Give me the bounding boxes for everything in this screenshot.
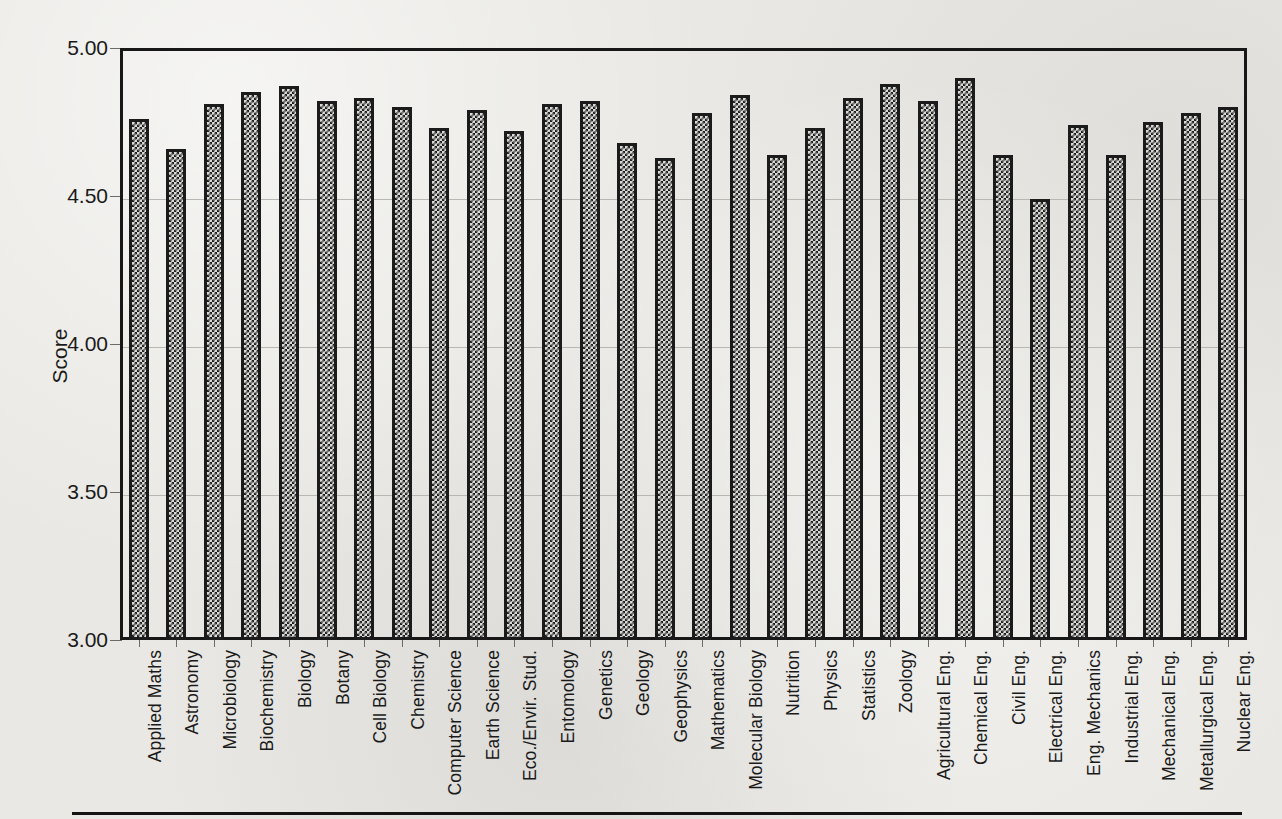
- x-axis-tick-label: Biology: [295, 650, 316, 708]
- bar: [617, 143, 637, 640]
- bar: [805, 128, 825, 640]
- x-axis-tick-mark: [251, 640, 252, 647]
- x-axis-tick-label: Mathematics: [708, 650, 729, 750]
- x-axis-tick-label: Microbiology: [220, 650, 241, 749]
- bar: [1181, 113, 1201, 640]
- x-axis-tick-label: Physics: [821, 650, 842, 711]
- bar: [1143, 122, 1163, 640]
- x-axis-tick-label: Chemistry: [408, 650, 429, 730]
- x-axis-tick-label: Chemical Eng.: [971, 650, 992, 765]
- x-axis-tick-mark: [552, 640, 553, 647]
- x-axis-tick-label: Mechanical Eng.: [1159, 650, 1180, 781]
- x-axis-tick-mark: [590, 640, 591, 647]
- x-axis-tick-label: Entomology: [558, 650, 579, 743]
- x-axis-tick-label: Industrial Eng.: [1122, 650, 1143, 763]
- x-axis-tick-mark: [965, 640, 966, 647]
- x-axis-tick-label: Statistics: [859, 650, 880, 721]
- x-axis-tick-label: Nuclear Eng.: [1234, 650, 1255, 752]
- bar: [129, 119, 149, 640]
- x-axis-tick-label: Computer Science: [445, 650, 466, 796]
- x-axis-tick-mark: [139, 640, 140, 647]
- bar: [955, 78, 975, 640]
- bar: [317, 101, 337, 640]
- y-axis-tick-label: 4.50: [0, 184, 108, 208]
- bar: [542, 104, 562, 640]
- bar: [204, 104, 224, 640]
- x-axis-tick-label: Nutrition: [783, 650, 804, 716]
- x-axis-tick-mark: [1116, 640, 1117, 647]
- x-axis-tick-mark: [890, 640, 891, 647]
- x-axis-tick-mark: [439, 640, 440, 647]
- x-axis-tick-mark: [853, 640, 854, 647]
- bar: [993, 155, 1013, 640]
- y-axis-tick-label: 3.00: [0, 628, 108, 652]
- y-axis-tick-label: 4.00: [0, 332, 108, 356]
- x-axis-tick-mark: [402, 640, 403, 647]
- x-axis-tick-mark: [702, 640, 703, 647]
- bar: [467, 110, 487, 640]
- bar: [767, 155, 787, 640]
- x-axis-tick-mark: [1191, 640, 1192, 647]
- x-axis-tick-label: Electrical Eng.: [1046, 650, 1067, 763]
- bar: [692, 113, 712, 640]
- x-axis-tick-label: Eco./Envir. Stud.: [520, 650, 541, 781]
- x-axis-tick-mark: [928, 640, 929, 647]
- bar: [279, 86, 299, 640]
- x-axis-tick-mark: [364, 640, 365, 647]
- x-axis-tick-mark: [214, 640, 215, 647]
- x-axis-tick-mark: [665, 640, 666, 647]
- x-axis-tick-mark: [477, 640, 478, 647]
- x-axis-tick-mark: [1153, 640, 1154, 647]
- x-axis-tick-label: Zoology: [896, 650, 917, 713]
- x-axis-tick-label: Molecular Biology: [746, 650, 767, 790]
- bar: [166, 149, 186, 640]
- bar: [241, 92, 261, 640]
- x-axis-tick-mark: [627, 640, 628, 647]
- bar-chart-figure: Score 3.003.504.004.505.00 Applied Maths…: [0, 0, 1282, 819]
- x-axis-tick-mark: [289, 640, 290, 647]
- x-axis-tick-label: Astronomy: [182, 650, 203, 735]
- x-axis-tick-mark: [1003, 640, 1004, 647]
- y-axis-tick-label: 5.00: [0, 36, 108, 60]
- x-axis-tick-label: Cell Biology: [370, 650, 391, 744]
- x-axis-tick-label: Biochemistry: [257, 650, 278, 751]
- bar: [843, 98, 863, 640]
- x-axis-tick-mark: [327, 640, 328, 647]
- x-axis-tick-label: Botany: [333, 650, 354, 705]
- x-axis-tick-mark: [1078, 640, 1079, 647]
- x-axis-tick-label: Geophysics: [671, 650, 692, 742]
- bar: [730, 95, 750, 640]
- bar: [1068, 125, 1088, 640]
- footer-rule: [72, 812, 1242, 815]
- y-axis-label: Score: [48, 276, 72, 436]
- x-axis-tick-labels: Applied MathsAstronomyMicrobiologyBioche…: [120, 640, 1247, 800]
- bar: [655, 158, 675, 640]
- x-axis-tick-mark: [815, 640, 816, 647]
- bar: [1106, 155, 1126, 640]
- x-axis-tick-label: Eng. Mechanics: [1084, 650, 1105, 776]
- x-axis-tick-mark: [740, 640, 741, 647]
- bar: [580, 101, 600, 640]
- x-axis-tick-label: Geology: [633, 650, 654, 716]
- bar: [429, 128, 449, 640]
- x-axis-tick-label: Applied Maths: [145, 650, 166, 762]
- x-axis-tick-label: Metallurgical Eng.: [1197, 650, 1218, 791]
- bar: [354, 98, 374, 640]
- x-axis-tick-mark: [1040, 640, 1041, 647]
- x-axis-tick-label: Earth Science: [483, 650, 504, 760]
- x-axis-tick-label: Civil Eng.: [1009, 650, 1030, 725]
- y-axis-tick-label: 3.50: [0, 480, 108, 504]
- bar: [1030, 199, 1050, 640]
- bar: [392, 107, 412, 640]
- bar: [1218, 107, 1238, 640]
- x-axis-tick-label: Agricultural Eng.: [934, 650, 955, 780]
- x-axis-tick-mark: [176, 640, 177, 647]
- bar: [880, 84, 900, 640]
- x-axis-tick-mark: [777, 640, 778, 647]
- x-axis-tick-mark: [514, 640, 515, 647]
- bar: [918, 101, 938, 640]
- x-axis-tick-mark: [1228, 640, 1229, 647]
- bar: [504, 131, 524, 640]
- bar-series: [120, 48, 1247, 640]
- x-axis-tick-label: Genetics: [596, 650, 617, 720]
